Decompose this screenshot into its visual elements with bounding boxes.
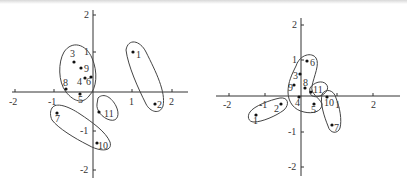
right-ytick-2: 2 [292, 19, 297, 30]
left-point-label-1: 1 [136, 49, 141, 60]
right-xtick-m2: -2 [223, 99, 231, 110]
right-ytick-1: 1 [292, 54, 297, 65]
left-xtick-m2: -2 [9, 96, 17, 107]
left-point-label-4: 4 [77, 76, 82, 87]
left-xtick-1: 1 [129, 96, 134, 107]
left-point-label-3: 3 [70, 48, 75, 59]
right-point-label-10: 10 [324, 97, 334, 108]
right-point-label-2: 2 [274, 103, 279, 114]
right-scatter-plot: -2 -1 1 2 2 1 -1 -2 1 2 3 4 5 6 7 8 9 10… [216, 18, 400, 176]
left-ytick-m2: -2 [80, 164, 88, 175]
left-ytick-2: 2 [84, 9, 89, 20]
right-point-label-5: 5 [311, 104, 316, 115]
right-point-label-9: 9 [288, 82, 293, 93]
left-cluster-outline-main [60, 45, 96, 101]
right-point-label-1: 1 [253, 115, 258, 126]
left-point-label-6: 6 [86, 76, 91, 87]
left-ytick-m1: -1 [80, 125, 88, 136]
left-scatter-plot: -2 -1 1 2 2 1 -1 -2 1 2 3 4 5 6 7 8 9 10… [9, 9, 188, 178]
left-point-label-11: 11 [104, 108, 114, 119]
right-point-label-11: 11 [313, 84, 323, 95]
right-point-label-4: 4 [295, 97, 300, 108]
right-point-label-6: 6 [310, 57, 315, 68]
left-point-label-8: 8 [63, 77, 68, 88]
left-point-label-2: 2 [157, 99, 162, 110]
left-point-label-10: 10 [98, 140, 108, 151]
right-point-label-7: 7 [334, 122, 339, 133]
right-ytick-m2: -2 [288, 161, 296, 172]
left-point-label-5: 5 [78, 94, 83, 105]
left-xtick-2: 2 [169, 96, 174, 107]
right-point-label-3: 3 [293, 70, 298, 81]
right-ytick-m1: -1 [288, 126, 296, 137]
left-point-label-9: 9 [84, 63, 89, 74]
right-xtick-2: 2 [371, 99, 376, 110]
right-point-label-8: 8 [303, 77, 308, 88]
left-point-label-7: 7 [55, 113, 60, 124]
figure: -2 -1 1 2 2 1 -1 -2 1 2 3 4 5 6 7 8 9 10… [0, 0, 407, 187]
